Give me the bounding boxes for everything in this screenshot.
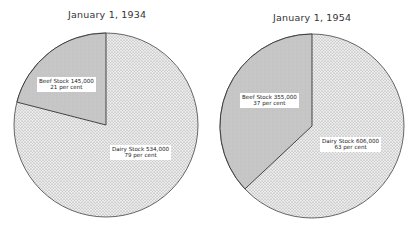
- chart-title-1954: January 1, 1954: [273, 12, 351, 23]
- chart-title-1934: January 1, 1934: [68, 9, 146, 20]
- pie-1954: [220, 34, 404, 218]
- label-dairy-1954-percent: 63 per cent: [322, 144, 379, 150]
- label-dairy-1954: Dairy Stock 606,000 63 per cent: [320, 137, 381, 152]
- label-beef-1934-percent: 21 per cent: [39, 84, 94, 90]
- label-dairy-1934-percent: 79 per cent: [112, 152, 169, 158]
- label-beef-1954-percent: 37 per cent: [242, 100, 297, 106]
- label-beef-1954: Beef Stock 355,000 37 per cent: [240, 93, 299, 108]
- label-dairy-1934: Dairy Stock 534,000 79 per cent: [110, 145, 171, 160]
- pie-1934: [14, 33, 198, 217]
- pie-charts-canvas: [0, 0, 416, 230]
- label-beef-1934: Beef Stock 145,000 21 per cent: [37, 77, 96, 92]
